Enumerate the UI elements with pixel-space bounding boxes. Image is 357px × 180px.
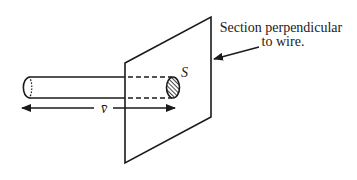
- wire-cylinder: [23, 77, 172, 98]
- label-pointer-arrow: [214, 47, 259, 59]
- plane-label-line1: Section perpendicular: [220, 20, 343, 35]
- diagram-svg: v̄ S Section perpendicular to wire.: [0, 0, 357, 180]
- plane-label-line2: to wire.: [262, 34, 305, 49]
- cross-section-symbol: S: [181, 65, 188, 80]
- velocity-symbol: v̄: [101, 101, 108, 116]
- cross-section-area: [167, 77, 180, 98]
- wire-cross-section-diagram: v̄ S Section perpendicular to wire.: [0, 0, 357, 180]
